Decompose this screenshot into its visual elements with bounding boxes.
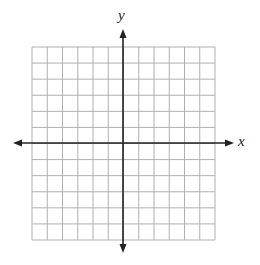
- y-axis-label: y: [118, 7, 125, 24]
- y-axis-down-arrow-icon: [120, 244, 127, 253]
- coordinate-plane: [0, 0, 260, 265]
- x-axis-left-arrow-icon: [13, 140, 22, 147]
- y-axis-up-arrow-icon: [120, 29, 127, 38]
- x-axis-right-arrow-icon: [225, 140, 234, 147]
- x-axis-label: x: [238, 133, 245, 150]
